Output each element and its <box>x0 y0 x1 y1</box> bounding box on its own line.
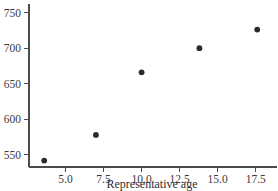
y-tick-label: 550 <box>4 149 22 161</box>
x-axis-title: Representative age <box>107 177 198 191</box>
scatter-chart: 550600650700750 5.07.510.012.515.017.5 R… <box>0 0 278 191</box>
y-tick-group: 550600650700750 <box>4 7 29 161</box>
y-tick-label: 700 <box>4 42 22 54</box>
x-tick-label: 17.5 <box>246 173 266 185</box>
chart-canvas: 550600650700750 5.07.510.012.515.017.5 R… <box>0 0 278 191</box>
x-tick-label: 15.0 <box>208 173 228 185</box>
y-tick-label: 750 <box>4 7 22 19</box>
data-point-group <box>41 27 260 164</box>
y-tick-label: 650 <box>4 78 22 90</box>
y-tick-label: 600 <box>4 113 22 125</box>
x-tick-label: 5.0 <box>58 173 73 185</box>
data-point <box>139 69 145 75</box>
y-axis: 550600650700750 <box>4 4 29 167</box>
data-point <box>41 158 47 164</box>
data-point <box>93 132 99 138</box>
data-point <box>197 45 203 51</box>
data-point <box>254 27 260 33</box>
